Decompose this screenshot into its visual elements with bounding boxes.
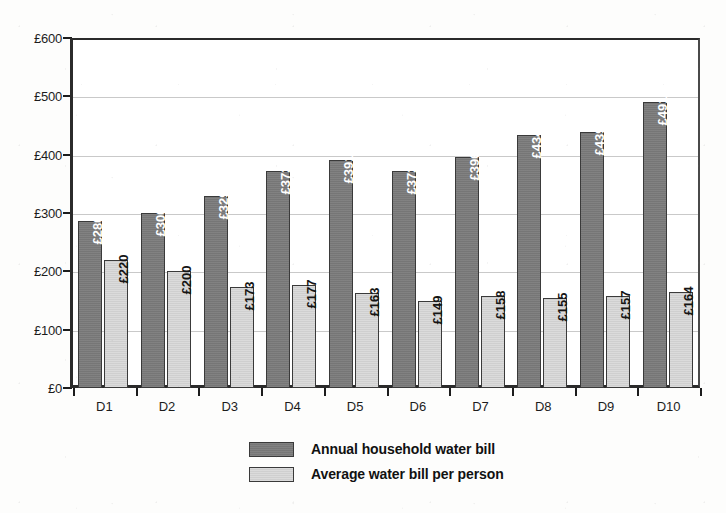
x-axis-tick-label: D6: [410, 399, 427, 414]
bar[interactable]: £391: [329, 160, 353, 388]
bar[interactable]: £372: [392, 171, 416, 388]
x-axis-tick-mark: [198, 388, 200, 396]
x-axis-tick-mark: [324, 388, 326, 396]
bar-group: £372£149: [387, 38, 450, 388]
bar-value-label: £157: [618, 291, 633, 320]
x-axis-tick-label: D5: [347, 399, 364, 414]
bar[interactable]: £163: [355, 293, 379, 388]
legend-item[interactable]: Annual household water bill: [249, 441, 504, 457]
bar[interactable]: £329: [204, 196, 228, 388]
x-axis-tick-mark: [387, 388, 389, 396]
bar-value-label: £200: [179, 266, 194, 295]
bar-value-label: £372: [404, 166, 419, 195]
legend-label: Annual household water bill: [311, 441, 495, 457]
bar[interactable]: £173: [230, 287, 254, 388]
x-axis-tick-label: D8: [535, 399, 552, 414]
x-axis-tick-mark: [637, 388, 639, 396]
legend-item[interactable]: Average water bill per person: [249, 466, 504, 482]
bar[interactable]: £149: [418, 301, 442, 388]
bar-value-label: £220: [116, 254, 131, 283]
bar-value-label: £391: [341, 154, 356, 183]
bar-value-label: £158: [493, 290, 508, 319]
y-axis-tick-marks: [0, 38, 72, 388]
x-axis-tick-label: D3: [221, 399, 238, 414]
bars-layer: £286£220£300£200£329£173£372£177£391£163…: [73, 38, 700, 388]
bar-group: £491£164: [637, 38, 700, 388]
bar[interactable]: £200: [167, 271, 191, 388]
bar-value-label: £155: [555, 292, 570, 321]
bar-value-label: £286: [90, 216, 105, 245]
bar-value-label: £177: [304, 279, 319, 308]
bar-group: £300£200: [136, 38, 199, 388]
bar-value-label: £300: [153, 208, 168, 237]
bar[interactable]: £158: [481, 296, 505, 388]
legend: Annual household water bill Average wate…: [249, 441, 504, 491]
bar-value-label: £372: [278, 166, 293, 195]
bar-value-label: £434: [529, 129, 544, 158]
x-axis-tick-mark: [261, 388, 263, 396]
x-axis-tick-label: D1: [96, 399, 113, 414]
bar[interactable]: £439: [580, 132, 604, 388]
x-axis-tick-label: D10: [657, 399, 681, 414]
bar[interactable]: £286: [78, 221, 102, 388]
x-axis-tick-mark: [73, 388, 75, 396]
bar[interactable]: £157: [606, 296, 630, 388]
bar[interactable]: £300: [141, 213, 165, 388]
bar-group: £329£173: [198, 38, 261, 388]
bar[interactable]: £220: [104, 260, 128, 388]
bar-value-label: £149: [430, 296, 445, 325]
bar[interactable]: £396: [455, 157, 479, 388]
bar-group: £434£155: [512, 38, 575, 388]
bar-value-label: £329: [216, 191, 231, 220]
x-axis-tick-label: D2: [159, 399, 176, 414]
x-axis-tick-mark: [449, 388, 451, 396]
bar-value-label: £491: [655, 96, 670, 125]
bar-value-label: £396: [467, 152, 482, 181]
x-axis-tick-mark: [512, 388, 514, 396]
legend-label: Average water bill per person: [311, 466, 504, 482]
bar-value-label: £163: [367, 287, 382, 316]
x-axis-tick-label: D7: [472, 399, 489, 414]
legend-swatch-average-water-bill-per-person: [249, 467, 294, 482]
x-axis-tick-mark: [136, 388, 138, 396]
legend-swatch-annual-household-water-bill: [249, 442, 294, 457]
bar-value-label: £173: [242, 282, 257, 311]
bar-group: £396£158: [449, 38, 512, 388]
bar[interactable]: £155: [543, 298, 567, 388]
bar-chart: £0£100£200£300£400£500£600 £286£220£300£…: [0, 0, 726, 513]
bar-group: £391£163: [324, 38, 387, 388]
x-axis-tick-label: D4: [284, 399, 301, 414]
x-axis-tick-label: D9: [598, 399, 615, 414]
bar-group: £372£177: [261, 38, 324, 388]
x-axis-tick-mark: [700, 388, 702, 396]
bar-group: £286£220: [73, 38, 136, 388]
bar-group: £439£157: [575, 38, 638, 388]
x-axis: D1D2D3D4D5D6D7D8D9D10: [70, 388, 700, 418]
bar-value-label: £164: [681, 287, 696, 316]
bar-value-label: £439: [592, 126, 607, 155]
bar[interactable]: £491: [643, 102, 667, 388]
x-axis-tick-mark: [575, 388, 577, 396]
bar[interactable]: £434: [517, 135, 541, 388]
bar[interactable]: £372: [266, 171, 290, 388]
bar[interactable]: £177: [292, 285, 316, 388]
bar[interactable]: £164: [669, 292, 693, 388]
